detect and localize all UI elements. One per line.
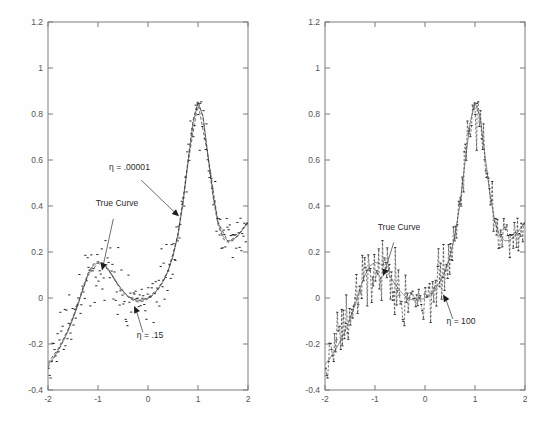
data-point bbox=[202, 110, 204, 111]
data-point bbox=[158, 280, 160, 281]
y-tick-label: 0.4 bbox=[31, 201, 43, 211]
data-point bbox=[81, 286, 83, 287]
data-point bbox=[49, 375, 51, 376]
data-point bbox=[389, 299, 391, 300]
data-point bbox=[89, 305, 91, 306]
data-point bbox=[199, 150, 201, 151]
data-point bbox=[111, 264, 113, 265]
data-point bbox=[422, 319, 424, 320]
data-point bbox=[386, 277, 388, 278]
data-point bbox=[101, 248, 103, 249]
data-point bbox=[120, 270, 122, 271]
data-point bbox=[68, 323, 70, 324]
x-tick-label: -2 bbox=[321, 394, 329, 404]
true-curve-path bbox=[325, 103, 525, 365]
data-point bbox=[241, 233, 243, 234]
data-point bbox=[141, 298, 143, 299]
data-point bbox=[236, 222, 238, 223]
data-point bbox=[166, 290, 168, 291]
x-tick-label: 0 bbox=[423, 394, 428, 404]
data-point bbox=[361, 255, 363, 256]
eta-small-label: η = .00001 bbox=[109, 162, 150, 172]
data-point bbox=[172, 243, 174, 244]
data-point bbox=[235, 248, 237, 249]
data-point bbox=[129, 293, 131, 294]
data-point bbox=[70, 339, 72, 340]
data-point bbox=[394, 314, 396, 315]
data-point bbox=[200, 101, 202, 102]
data-point bbox=[75, 318, 77, 319]
y-tick-label: 0.8 bbox=[31, 109, 43, 119]
data-point bbox=[126, 325, 128, 326]
data-point bbox=[123, 301, 125, 302]
data-point bbox=[228, 229, 230, 230]
data-point bbox=[242, 236, 244, 237]
data-point bbox=[522, 241, 524, 242]
data-point bbox=[100, 274, 102, 275]
data-point bbox=[224, 246, 226, 247]
plot-content bbox=[325, 101, 526, 378]
data-point bbox=[229, 224, 231, 225]
data-point bbox=[155, 281, 157, 282]
data-point bbox=[482, 149, 484, 150]
data-point bbox=[158, 306, 160, 307]
y-tick-label: 1 bbox=[315, 63, 320, 73]
data-point bbox=[174, 259, 176, 260]
eta-large-label: η = 100 bbox=[447, 316, 476, 326]
x-tick-label: -1 bbox=[94, 394, 102, 404]
data-point bbox=[164, 299, 166, 300]
data-point bbox=[106, 257, 108, 258]
data-point bbox=[512, 248, 514, 249]
data-point bbox=[172, 274, 174, 275]
data-point bbox=[135, 291, 137, 292]
data-point bbox=[430, 322, 432, 323]
data-point bbox=[222, 247, 224, 248]
data-point bbox=[130, 312, 132, 313]
x-tick-label: 0 bbox=[146, 394, 151, 404]
data-point bbox=[223, 230, 225, 231]
data-point bbox=[128, 302, 130, 303]
fit-curve-path bbox=[48, 101, 248, 367]
y-tick-label: 0 bbox=[38, 293, 43, 303]
data-point bbox=[201, 126, 203, 127]
data-point bbox=[125, 319, 127, 320]
data-point bbox=[238, 247, 240, 248]
data-point bbox=[101, 289, 103, 290]
data-point bbox=[116, 292, 118, 293]
data-point bbox=[108, 262, 110, 263]
data-point bbox=[333, 361, 335, 362]
x-tick-label: 1 bbox=[473, 394, 478, 404]
data-point bbox=[63, 349, 65, 350]
data-point bbox=[424, 294, 426, 295]
y-tick-label: 1 bbox=[38, 63, 43, 73]
data-point bbox=[111, 271, 113, 272]
y-tick-label: 1.2 bbox=[31, 17, 43, 27]
data-point bbox=[122, 304, 124, 305]
data-point bbox=[56, 361, 58, 362]
data-point bbox=[50, 378, 52, 379]
data-point bbox=[147, 287, 149, 288]
data-point bbox=[219, 219, 221, 220]
data-point bbox=[90, 254, 92, 255]
data-point bbox=[231, 235, 233, 236]
x-tick-label: -2 bbox=[44, 394, 52, 404]
data-point bbox=[87, 267, 89, 268]
data-point bbox=[103, 300, 105, 301]
data-point bbox=[64, 345, 66, 346]
data-point bbox=[197, 114, 199, 115]
data-point bbox=[364, 257, 366, 258]
data-point bbox=[60, 331, 62, 332]
data-point bbox=[165, 244, 167, 245]
data-point bbox=[99, 270, 101, 271]
data-point bbox=[78, 274, 80, 275]
data-point bbox=[506, 224, 508, 225]
data-point bbox=[232, 257, 234, 258]
data-point bbox=[186, 151, 188, 152]
data-point bbox=[109, 277, 111, 278]
data-point bbox=[72, 308, 74, 309]
data-point bbox=[127, 275, 129, 276]
true-curve-label: True Curve bbox=[378, 222, 421, 232]
y-tick-label: 0 bbox=[315, 293, 320, 303]
data-point bbox=[77, 297, 79, 298]
annotation-leader bbox=[141, 180, 175, 212]
